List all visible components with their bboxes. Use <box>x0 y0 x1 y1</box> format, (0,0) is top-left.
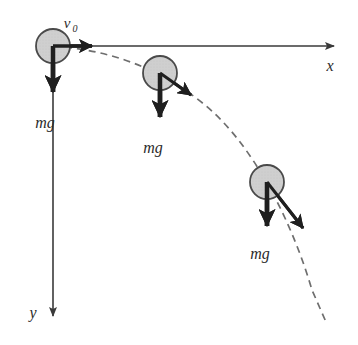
ball-middle-weight-label: mg <box>143 139 163 157</box>
ball-middle-group: mg <box>143 56 191 157</box>
velocity-subscript: 0 <box>73 23 78 34</box>
ball-final-group: mg <box>250 165 303 263</box>
x-axis-label: x <box>325 57 333 74</box>
projectile-motion-figure: x y mg v 0 mg <box>0 0 358 345</box>
velocity-symbol: v <box>64 15 71 31</box>
projectile-diagram-canvas: x y mg v 0 mg <box>0 0 358 345</box>
ball-initial-weight-label: mg <box>35 114 55 132</box>
trajectory-path <box>53 46 326 322</box>
ball-initial-group: mg v 0 <box>35 15 92 132</box>
ball-initial-velocity-label: v 0 <box>64 15 78 34</box>
ball-final-velocity-vector-overlay <box>267 182 303 228</box>
y-axis-label: y <box>27 304 37 322</box>
ball-final-weight-label: mg <box>250 245 270 263</box>
